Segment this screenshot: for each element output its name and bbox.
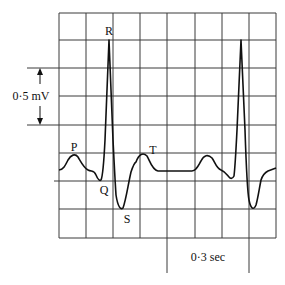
arrow-up-icon [37,68,43,75]
label-r: R [105,24,113,38]
label-time-scale: 0·3 sec [191,250,225,264]
label-q: Q [100,183,109,197]
label-voltage-scale: 0·5 mV [13,89,50,103]
label-p: P [71,140,78,154]
label-s: S [124,212,131,226]
label-t: T [149,143,157,157]
ecg-diagram: R P Q S T 0·5 mV 0·3 sec [0,0,285,285]
arrow-down-icon [37,118,43,125]
